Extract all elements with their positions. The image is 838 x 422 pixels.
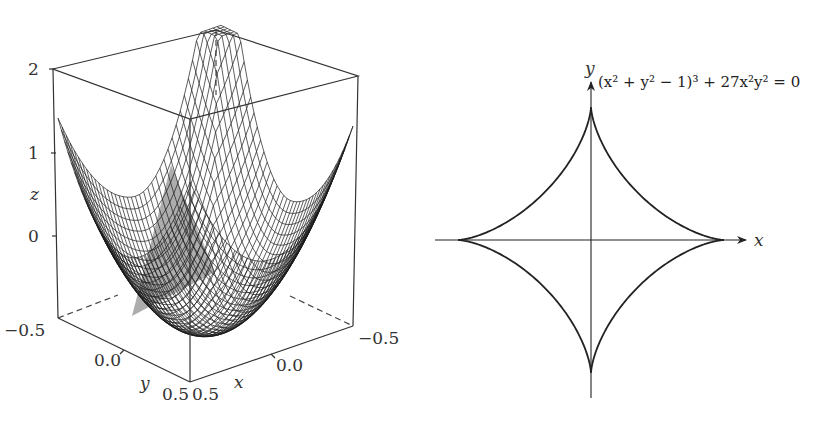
surface-axis-labels: 210z−0.50.00.5y0.50.0−0.5x bbox=[4, 59, 399, 404]
y-tick-label: 0.0 bbox=[94, 350, 121, 370]
surface-mesh bbox=[58, 25, 353, 337]
x-tick-label: −0.5 bbox=[358, 328, 399, 348]
z-axis-label: z bbox=[29, 184, 40, 204]
z-tick-label: 2 bbox=[28, 59, 39, 79]
astroid-plot: x y (x² + y² − 1)³ + 27x²y² = 0 bbox=[420, 0, 838, 422]
y-axis-label: y bbox=[584, 58, 595, 78]
surface-plot: 210z−0.50.00.5y0.50.0−0.5x bbox=[0, 0, 420, 422]
z-tick-label: 1 bbox=[28, 143, 39, 163]
y-axis-label: y bbox=[139, 373, 150, 393]
x-tick-label: 0.5 bbox=[192, 384, 219, 404]
x-axis-label: x bbox=[754, 230, 764, 250]
surface-plot-panel: 210z−0.50.00.5y0.50.0−0.5x bbox=[0, 0, 420, 422]
x-tick-label: 0.0 bbox=[276, 355, 303, 375]
y-tick-label: −0.5 bbox=[4, 320, 45, 340]
astroid-plot-panel: x y (x² + y² − 1)³ + 27x²y² = 0 bbox=[420, 0, 838, 422]
z-tick-label: 0 bbox=[28, 226, 39, 246]
y-tick-label: 0.5 bbox=[162, 384, 189, 404]
box-hidden-edges bbox=[58, 30, 353, 326]
equation-label: (x² + y² − 1)³ + 27x²y² = 0 bbox=[598, 73, 800, 91]
x-axis-label: x bbox=[234, 372, 244, 392]
